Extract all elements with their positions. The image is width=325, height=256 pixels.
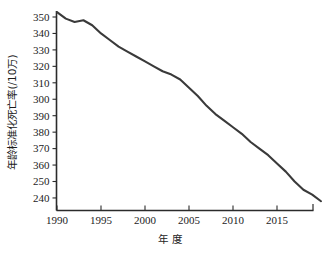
y-axis-tick-label: 250 <box>33 175 50 187</box>
mortality-rate-line <box>57 12 321 201</box>
x-axis: 199019952000200520102015 <box>46 204 314 226</box>
line-chart: 350340330320310300390380370360250240 199… <box>0 0 325 256</box>
x-axis-tick-labels: 199019952000200520102015 <box>46 214 289 226</box>
y-axis-title: 年龄标准化死亡率(/10万) <box>6 54 18 169</box>
y-axis-tick-label: 330 <box>33 44 50 56</box>
plot-area <box>57 12 321 201</box>
y-axis-tick-label: 340 <box>33 27 50 39</box>
y-axis-tick-label: 350 <box>33 11 50 23</box>
x-axis-title: 年 度 <box>158 233 182 245</box>
x-axis-tick-label: 2005 <box>178 214 201 226</box>
y-axis-tick-label: 370 <box>33 142 50 154</box>
x-axis-tick-label: 2010 <box>222 214 245 226</box>
y-axis-tick-label: 390 <box>33 110 50 122</box>
x-axis-tick-label: 2015 <box>266 214 289 226</box>
y-axis-tick-label: 310 <box>33 77 50 89</box>
y-axis-tick-label: 360 <box>33 159 50 171</box>
x-axis-tick-label: 1990 <box>46 214 69 226</box>
chart-container: 350340330320310300390380370360250240 199… <box>0 0 325 256</box>
y-axis: 350340330320310300390380370360250240 <box>33 11 57 211</box>
y-axis-tick-labels: 350340330320310300390380370360250240 <box>33 11 50 204</box>
y-axis-tick-label: 380 <box>33 126 50 138</box>
x-axis-tick-label: 2000 <box>134 214 157 226</box>
y-axis-tick-label: 240 <box>33 192 50 204</box>
x-axis-tick-label: 1995 <box>90 214 113 226</box>
y-axis-tick-label: 320 <box>33 60 50 72</box>
y-axis-tick-label: 300 <box>33 93 50 105</box>
